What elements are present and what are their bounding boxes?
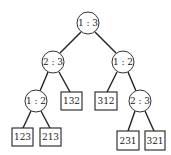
edge-ll-leaf-123 <box>23 111 31 128</box>
decision-tree-diagram: 1 : 3 2 : 3 1 : 2 1 : 2 2 : 3 132 312 12… <box>0 0 171 155</box>
leaf-231: 231 <box>117 131 139 150</box>
svg-text:321: 321 <box>146 136 163 146</box>
edge-rr-leaf-231 <box>128 111 135 131</box>
node-right-right: 2 : 3 <box>129 90 151 112</box>
svg-text:312: 312 <box>97 96 114 106</box>
svg-text:1 : 2: 1 : 2 <box>26 96 46 106</box>
leaf-213: 213 <box>40 128 61 146</box>
leaf-123: 123 <box>12 128 33 146</box>
edge-right-rightchild <box>128 72 136 91</box>
leaf-321: 321 <box>145 131 165 150</box>
svg-text:132: 132 <box>63 96 80 106</box>
svg-text:231: 231 <box>119 136 136 146</box>
edge-left-leftchild <box>40 72 48 91</box>
svg-text:213: 213 <box>42 132 59 142</box>
edge-root-right <box>95 32 116 53</box>
svg-text:1 : 2: 1 : 2 <box>113 57 133 67</box>
edge-ll-leaf-213 <box>41 111 50 128</box>
node-left-left: 1 : 2 <box>25 90 47 112</box>
edge-left-leaf-132 <box>59 72 70 92</box>
svg-text:2 : 3: 2 : 3 <box>43 57 63 67</box>
svg-text:123: 123 <box>14 132 31 142</box>
node-left: 2 : 3 <box>42 51 64 73</box>
svg-text:2 : 3: 2 : 3 <box>130 96 150 106</box>
edge-rr-leaf-321 <box>145 111 154 131</box>
edge-right-leaf-312 <box>107 72 117 92</box>
leaf-132: 132 <box>61 92 82 110</box>
leaf-312: 312 <box>95 92 117 110</box>
svg-text:1 : 3: 1 : 3 <box>78 18 98 28</box>
node-root: 1 : 3 <box>77 12 99 34</box>
edge-root-left <box>60 32 81 53</box>
node-right: 1 : 2 <box>112 51 134 73</box>
